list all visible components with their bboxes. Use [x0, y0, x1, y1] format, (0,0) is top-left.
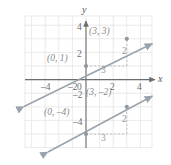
x-tick--4: –4 — [41, 83, 51, 93]
y-tick-4: 4 — [77, 23, 82, 33]
y-tick--2: –2 — [73, 91, 83, 101]
point-label-3-neg2: (3, –2) — [86, 88, 111, 98]
lower-line — [48, 96, 153, 152]
run-label-upper: 3 — [101, 66, 106, 76]
rise-label-upper: 2 — [122, 47, 127, 57]
run-label-lower: 3 — [101, 134, 106, 144]
rise-label-lower: 2 — [122, 115, 127, 125]
point-label-0-neg4: (0, –4) — [44, 108, 69, 118]
coordinate-graph-figure: x y –4 –2 0 2 4 4 2 –2 –4 (3, 3) (0, 1) … — [0, 0, 171, 165]
point-label-3-3: (3, 3) — [89, 27, 110, 37]
graph-canvas — [0, 0, 171, 165]
x-tick-4: 4 — [137, 83, 142, 93]
point-3-neg2 — [125, 105, 129, 109]
point-label-0-1: (0, 1) — [47, 54, 68, 64]
point-0-1 — [84, 64, 88, 68]
y-tick-2: 2 — [77, 50, 82, 60]
y-tick--4: –4 — [73, 118, 83, 128]
y-axis-label: y — [82, 5, 86, 15]
point-3-3 — [125, 37, 129, 41]
x-axis-label: x — [158, 74, 162, 84]
point-0-neg4 — [84, 132, 88, 136]
